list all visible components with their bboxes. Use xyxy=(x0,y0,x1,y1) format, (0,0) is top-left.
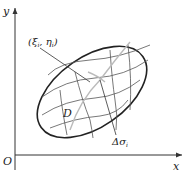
x-axis-arrow-icon xyxy=(176,153,182,158)
region-d xyxy=(21,28,163,156)
point-label: (ξi, ηi) xyxy=(28,36,58,48)
axes xyxy=(13,8,183,170)
x-axis-label: x xyxy=(173,160,180,173)
point-pointer-line xyxy=(40,48,90,82)
region-label: D xyxy=(62,107,72,120)
y-axis-arrow-icon xyxy=(13,8,18,14)
partition-grid xyxy=(42,45,150,138)
region-boundary xyxy=(21,28,163,156)
origin-label: O xyxy=(3,155,12,168)
y-axis-label: y xyxy=(2,5,10,18)
area-element-label: Δσi xyxy=(111,136,128,148)
double-integral-diagram: y x O D (ξi, ηi) Δσi xyxy=(0,0,185,175)
